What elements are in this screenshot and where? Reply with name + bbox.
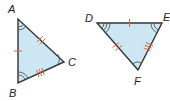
congruent-triangles-diagram: A B C D E F [0, 0, 170, 101]
vertex-label-e: E [163, 11, 170, 23]
triangle-def-shape [97, 23, 162, 70]
vertex-label-b: B [9, 87, 16, 99]
vertex-label-c: C [68, 56, 76, 68]
triangle-abc: A B C [7, 3, 76, 99]
vertex-label-f: F [134, 75, 142, 87]
vertex-label-d: D [85, 12, 93, 24]
vertex-label-a: A [7, 3, 15, 15]
triangle-def: D E F [85, 11, 170, 87]
